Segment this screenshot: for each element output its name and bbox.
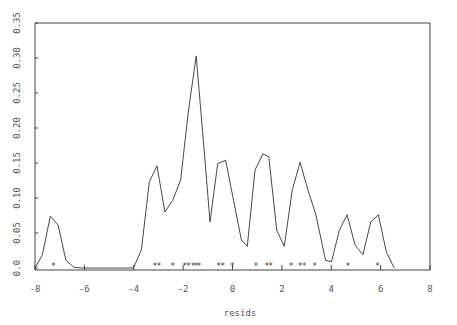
rug-marker: * (312, 262, 317, 271)
rug-marker: * (346, 262, 351, 271)
x-axis-label: resids (224, 308, 257, 318)
rug-marker: * (197, 262, 202, 271)
x-tick-label: 0 (230, 284, 235, 294)
y-tick-label: 0.15 (12, 152, 22, 174)
plot-svg: 0.00.050.100.150.200.250.300.35 -8-6-4-2… (0, 0, 457, 325)
x-tick-label: 2 (279, 284, 284, 294)
rug-marker: * (375, 262, 380, 271)
x-tick-label: 8 (427, 284, 432, 294)
rug-marker: * (230, 262, 235, 271)
y-tick-label: 0.30 (12, 47, 22, 69)
rug-marker: * (268, 262, 273, 271)
y-tick-label: 0.10 (12, 187, 22, 209)
y-tick-label: 0.35 (12, 12, 22, 34)
x-tick-label: 4 (329, 284, 334, 294)
rug-marker: * (254, 262, 259, 271)
y-tick-label: 0.25 (12, 82, 22, 104)
density-plot: 0.00.050.100.150.200.250.300.35 -8-6-4-2… (0, 0, 457, 325)
density-curve (35, 56, 394, 268)
rug-marker: * (220, 262, 225, 271)
rug-marker: * (289, 262, 294, 271)
rug-marker: * (157, 262, 162, 271)
x-tick-label: -8 (30, 284, 41, 294)
x-tick-label: -6 (79, 284, 90, 294)
x-tick-label: 6 (378, 284, 383, 294)
y-tick-label: 0.05 (12, 222, 22, 244)
rug-marker: * (51, 262, 56, 271)
rug-marker: * (170, 262, 175, 271)
y-axis: 0.00.050.100.150.200.250.300.35 (12, 12, 38, 276)
x-tick-label: -4 (128, 284, 139, 294)
plot-frame (35, 23, 430, 270)
rug-marker: * (302, 262, 307, 271)
y-tick-label: 0.0 (12, 260, 22, 276)
y-tick-label: 0.20 (12, 117, 22, 139)
x-tick-label: -2 (178, 284, 189, 294)
